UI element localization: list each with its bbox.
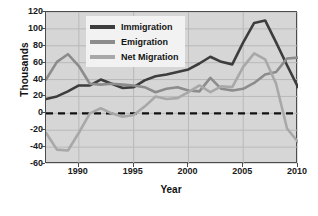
legend-label-net-migration: Net Migration — [121, 52, 179, 62]
x-tick-label: 2005 — [222, 166, 262, 176]
x-tick-mark — [297, 163, 298, 167]
y-tick-mark — [41, 146, 45, 147]
y-tick-mark — [41, 11, 45, 12]
y-tick-mark — [41, 163, 45, 164]
x-tick-label: 2000 — [167, 166, 207, 176]
legend-swatch-emigration — [90, 40, 115, 44]
x-tick-label: 2010 — [277, 166, 317, 176]
legend-swatch-immigration — [90, 25, 115, 29]
y-tick-mark — [41, 112, 45, 113]
y-tick-mark — [41, 28, 45, 29]
chart-figure: Thousands 120100806040200-20-40-60 Year … — [0, 0, 318, 216]
y-tick-mark — [41, 95, 45, 96]
y-tick-label: -60 — [17, 159, 43, 168]
x-tick-mark — [78, 163, 79, 167]
y-tick-label: 0 — [17, 108, 43, 117]
y-tick-label: 120 — [17, 7, 43, 16]
y-tick-label: 40 — [17, 74, 43, 83]
x-tick-label: 1995 — [113, 166, 153, 176]
legend-item-net-migration: Net Migration — [90, 49, 179, 64]
x-tick-mark — [242, 163, 243, 167]
y-tick-label: 80 — [17, 40, 43, 49]
legend-label-emigration: Emigration — [121, 37, 168, 47]
y-axis-tick-labels: 120100806040200-20-40-60 — [14, 11, 43, 163]
legend-label-immigration: Immigration — [121, 22, 173, 32]
x-tick-mark — [187, 163, 188, 167]
legend-item-emigration: Emigration — [90, 34, 179, 49]
y-tick-mark — [41, 62, 45, 63]
y-tick-label: 100 — [17, 23, 43, 32]
x-axis-title: Year — [45, 184, 297, 195]
y-tick-mark — [41, 45, 45, 46]
legend-item-immigration: Immigration — [90, 19, 179, 34]
y-tick-label: 60 — [17, 57, 43, 66]
legend-swatch-net-migration — [90, 55, 115, 59]
y-tick-mark — [41, 129, 45, 130]
y-tick-label: 20 — [17, 91, 43, 100]
y-tick-label: -20 — [17, 125, 43, 134]
chart-legend: Immigration Emigration Net Migration — [86, 16, 185, 67]
x-tick-mark — [133, 163, 134, 167]
y-tick-mark — [41, 79, 45, 80]
x-tick-label: 1990 — [58, 166, 98, 176]
y-tick-label: -40 — [17, 142, 43, 151]
